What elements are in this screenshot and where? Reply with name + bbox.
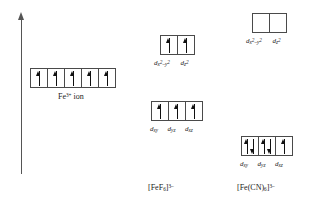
orbital-box[interactable] bbox=[98, 68, 116, 88]
orbital-box-dxz[interactable] bbox=[185, 101, 203, 121]
orbital-label-dz2: dz2 bbox=[272, 37, 280, 45]
orbital-box-row bbox=[160, 35, 195, 55]
orbital-box-row bbox=[30, 68, 116, 88]
orbital-box-row bbox=[151, 101, 203, 121]
orbital-label-dyz: dyz bbox=[168, 125, 176, 133]
fef6-ligand-count: 6 bbox=[163, 186, 166, 192]
orbital-box[interactable] bbox=[47, 68, 65, 88]
orbital-box[interactable] bbox=[64, 68, 82, 88]
spin-up-arrow-icon bbox=[36, 71, 42, 86]
orbital-box-dxz[interactable] bbox=[275, 136, 293, 156]
orbital-box-dz2[interactable] bbox=[177, 35, 195, 55]
complex-caption-fef6: [FeF6]3– bbox=[148, 183, 174, 192]
orbital-group-fecn6-eg bbox=[252, 13, 287, 33]
electron-spins bbox=[178, 36, 194, 54]
orbital-label-dxy: dxy bbox=[240, 160, 248, 168]
spin-up-arrow-icon bbox=[104, 71, 110, 86]
electron-spins bbox=[161, 36, 177, 54]
spin-up-arrow-icon bbox=[53, 71, 59, 86]
energy-axis-shaft bbox=[21, 18, 22, 174]
spin-down-arrow-icon bbox=[250, 139, 256, 154]
orbital-box-dxy[interactable] bbox=[151, 101, 169, 121]
fecn6-charge: 3– bbox=[269, 183, 274, 189]
electron-spins bbox=[253, 14, 269, 32]
electron-spins bbox=[31, 69, 47, 87]
orbital-box-dz2[interactable] bbox=[269, 13, 287, 33]
orbital-diagram-figure: Fe3+ ion dx2–y2 dz2 bbox=[0, 0, 318, 210]
fef6-charge: 3– bbox=[168, 183, 173, 189]
electron-spins bbox=[186, 102, 202, 120]
spin-up-arrow-icon bbox=[157, 104, 163, 119]
orbital-box-dyz[interactable] bbox=[258, 136, 276, 156]
electron-spins bbox=[276, 137, 292, 155]
fecn6-ligand-count: 6 bbox=[264, 186, 267, 192]
spin-up-arrow-icon bbox=[183, 38, 189, 53]
orbital-group-fecn6-t2g bbox=[241, 136, 293, 156]
spin-up-arrow-icon bbox=[174, 104, 180, 119]
orbital-box-row bbox=[252, 13, 287, 33]
orbital-group-free-ion bbox=[30, 68, 116, 88]
orbital-label-dz2: dz2 bbox=[180, 59, 188, 67]
orbital-box-row bbox=[241, 136, 293, 156]
orbital-labels-fef6-t2g: dxy dyz dxz bbox=[150, 125, 193, 133]
orbital-box[interactable] bbox=[81, 68, 99, 88]
electron-spins bbox=[169, 102, 185, 120]
orbital-labels-fecn6-eg: dx2–y2 dz2 bbox=[246, 37, 281, 45]
electron-spins bbox=[65, 69, 81, 87]
spin-up-arrow-icon bbox=[87, 71, 93, 86]
electron-spins bbox=[82, 69, 98, 87]
complex-caption-fecn6: [Fe(CN)6]3– bbox=[237, 183, 275, 192]
orbital-group-fef6-t2g bbox=[151, 101, 203, 121]
orbital-group-fef6-eg bbox=[160, 35, 195, 55]
electron-spins bbox=[259, 137, 275, 155]
spin-up-arrow-icon bbox=[191, 104, 197, 119]
electron-spins bbox=[152, 102, 168, 120]
orbital-label-dxy: dxy bbox=[150, 125, 158, 133]
orbital-label-dx2y2: dx2–y2 bbox=[246, 37, 262, 45]
orbital-label-dxz: dxz bbox=[185, 125, 193, 133]
free-ion-caption: Fe3+ ion bbox=[58, 92, 84, 101]
orbital-labels-fef6-eg: dx2–y2 dz2 bbox=[154, 59, 189, 67]
spin-up-arrow-icon bbox=[281, 139, 287, 154]
electron-spins bbox=[270, 14, 286, 32]
orbital-box[interactable] bbox=[30, 68, 48, 88]
orbital-box-dyz[interactable] bbox=[168, 101, 186, 121]
electron-spins bbox=[242, 137, 258, 155]
electron-spins bbox=[99, 69, 115, 87]
orbital-label-dx2y2: dx2–y2 bbox=[154, 59, 170, 67]
orbital-label-dxz: dxz bbox=[275, 160, 283, 168]
orbital-labels-fecn6-t2g: dxy dyz dxz bbox=[240, 160, 283, 168]
orbital-label-dyz: dyz bbox=[258, 160, 266, 168]
electron-spins bbox=[48, 69, 64, 87]
spin-down-arrow-icon bbox=[267, 139, 273, 154]
orbital-box-dx2y2[interactable] bbox=[252, 13, 270, 33]
free-ion-element: Fe bbox=[58, 92, 66, 101]
orbital-box-dxy[interactable] bbox=[241, 136, 259, 156]
orbital-box-dx2y2[interactable] bbox=[160, 35, 178, 55]
spin-up-arrow-icon bbox=[70, 71, 76, 86]
spin-up-arrow-icon bbox=[166, 38, 172, 53]
free-ion-suffix: ion bbox=[72, 92, 84, 101]
